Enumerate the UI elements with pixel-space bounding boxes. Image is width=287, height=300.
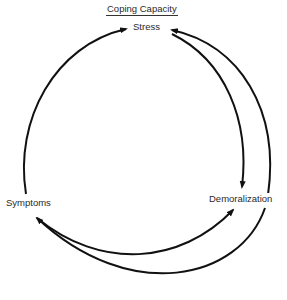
node-stress: Stress bbox=[132, 21, 161, 32]
coping-capacity-label: Coping Capacity bbox=[106, 3, 178, 16]
arrow-stress-to-demoralization bbox=[172, 34, 243, 187]
node-demoralization: Demoralization bbox=[208, 193, 273, 204]
cycle-diagram bbox=[0, 0, 287, 300]
arrow-symptoms-to-demoralization bbox=[37, 210, 233, 254]
node-symptoms: Symptoms bbox=[5, 197, 52, 208]
arrow-outer-to-stress bbox=[172, 30, 270, 195]
arrow-symptoms-to-stress bbox=[24, 29, 126, 194]
